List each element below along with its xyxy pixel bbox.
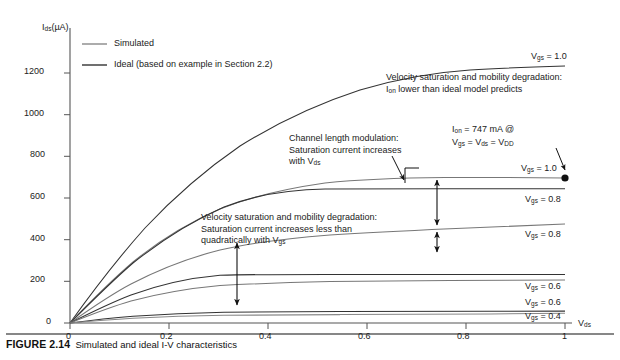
clm-vds-sub: ds xyxy=(314,159,321,166)
ion-line2-sub2: ds xyxy=(481,140,488,147)
ion-line2-mid: = V xyxy=(465,137,481,147)
velocity-mid-vgs-pre: quadratically with V xyxy=(201,235,279,245)
annotation-channel-length-modulation: Channel length modulation: Saturation cu… xyxy=(289,133,402,169)
curve-ideal-vgs-0p4 xyxy=(70,311,565,323)
curve-label-vgs-0p8-sim: Vgs = 0.8 xyxy=(525,229,561,239)
curve-label-vgs-1p0-sim: Vgs = 1.0 xyxy=(521,163,557,173)
figure-container: Ids(µA) 0 200 400 600 800 1000 1200 0 0.… xyxy=(0,0,620,360)
figure-caption-body: Simulated and ideal I-V characteristics xyxy=(75,339,237,350)
clm-line1: Channel length modulation: xyxy=(289,133,402,145)
figure-caption-number: FIGURE 2.14 xyxy=(6,338,70,350)
y-tick-200: 200 xyxy=(30,274,45,284)
ion-line1: Ion = 747 mA @ xyxy=(452,124,514,137)
ion-line2-sub1: gs xyxy=(458,140,465,147)
vgs-post: = 0.8 xyxy=(538,194,561,204)
vgs-post: = 1.0 xyxy=(534,163,557,173)
vgs-post: = 0.4 xyxy=(538,311,561,321)
ion-marker-dot xyxy=(561,174,568,181)
ion-symbol-sub: on xyxy=(389,87,396,94)
y-axis-label-unit: (µA) xyxy=(51,22,68,32)
ion-symbol-post: lower than ideal model predicts xyxy=(396,84,523,94)
ion-line2-post: = V xyxy=(488,137,504,147)
ion-line2-sub3: DD xyxy=(504,140,513,147)
curve-ideal-vgs-1p0 xyxy=(70,66,565,323)
y-tick-400: 400 xyxy=(30,233,45,243)
x-axis-label: Vds xyxy=(578,318,591,330)
vgs-sub: gs xyxy=(531,314,538,321)
vgs-sub: gs xyxy=(537,54,544,61)
vgs-post: = 0.8 xyxy=(538,229,561,239)
figure-caption: FIGURE 2.14 Simulated and ideal I-V char… xyxy=(6,338,237,350)
y-tick-800: 800 xyxy=(30,149,45,159)
curve-simulated-vgs-1p0 xyxy=(70,177,565,323)
clm-line2: Saturation current increases xyxy=(289,145,402,157)
vgs-sub: gs xyxy=(531,284,538,291)
velocity-mid-line1: Velocity saturation and mobility degrada… xyxy=(201,212,377,224)
vgs-post: = 0.6 xyxy=(538,297,561,307)
x-tick-0p4: 0.4 xyxy=(259,331,272,341)
curve-label-vgs-1p0-ideal: Vgs = 1.0 xyxy=(531,51,567,61)
velocity-mid-line3: quadratically with Vgs xyxy=(201,235,377,248)
annotation-velocity-saturation-mid: Velocity saturation and mobility degrada… xyxy=(201,212,377,248)
ion-line1-post: = 747 mA @ xyxy=(462,124,514,134)
x-tick-0p6: 0.6 xyxy=(358,331,371,341)
curve-label-vgs-0p6-ideal: Vgs = 0.6 xyxy=(525,281,561,291)
curve-label-vgs-0p8-ideal: Vgs = 0.8 xyxy=(525,194,561,204)
annotation-ion-value: Ion = 747 mA @ Vgs = Vds = VDD xyxy=(452,124,514,150)
vgs-sub: gs xyxy=(531,232,538,239)
curve-simulated-vgs-0p6 xyxy=(70,280,565,323)
clm-line3: with Vds xyxy=(289,156,402,169)
annotation-velocity-top-line2: Ion lower than ideal model predicts xyxy=(386,84,562,97)
curve-label-vgs-0p6-sim: Vgs = 0.6 xyxy=(525,297,561,307)
ion-line2: Vgs = Vds = VDD xyxy=(452,137,514,150)
y-tick-0: 0 xyxy=(46,316,51,326)
x-axis-label-sub: ds xyxy=(584,321,591,328)
clm-bracket xyxy=(405,168,419,183)
vgs-post: = 1.0 xyxy=(544,51,567,61)
curve-label-vgs-0p4: Vgs = 0.4 xyxy=(525,311,561,321)
vgs-sub: gs xyxy=(531,300,538,307)
curve-ideal-vgs-0p8 xyxy=(70,189,565,323)
ion-callout-arrow xyxy=(556,148,565,170)
x-tick-1: 1 xyxy=(562,331,567,341)
legend-item-simulated: Simulated xyxy=(114,38,154,48)
annotation-velocity-saturation-top: Velocity saturation and mobility degrada… xyxy=(386,72,562,96)
annotation-velocity-top-line1: Velocity saturation and mobility degrada… xyxy=(386,72,562,84)
y-axis-label: Ids(µA) xyxy=(42,22,69,32)
y-tick-marks xyxy=(64,73,70,323)
vgs-post: = 0.6 xyxy=(538,281,561,291)
curve-simulated-vgs-0p4 xyxy=(70,313,565,323)
velocity-mid-line2: Saturation current increases less than xyxy=(201,224,377,236)
ion-line1-sub: on xyxy=(455,127,462,134)
clm-vds-pre: with V xyxy=(289,156,314,166)
x-tick-0p8: 0.8 xyxy=(457,331,470,341)
x-tick-marks xyxy=(70,323,565,329)
y-tick-1000: 1000 xyxy=(24,108,44,118)
vgs-sub: gs xyxy=(527,166,534,173)
legend-item-ideal: Ideal (based on example in Section 2.2) xyxy=(114,59,273,69)
velocity-mid-vgs-sub: gs xyxy=(279,238,286,245)
y-tick-600: 600 xyxy=(30,191,45,201)
vgs-sub: gs xyxy=(531,197,538,204)
y-tick-1200: 1200 xyxy=(24,66,44,76)
